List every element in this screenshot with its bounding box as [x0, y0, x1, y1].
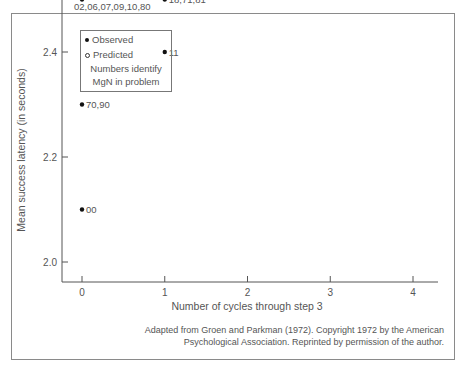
legend-predicted: Predicted [85, 47, 167, 62]
observed-point [80, 207, 84, 211]
x-tick-label: 3 [327, 287, 333, 298]
point-label: 18,71,81 [169, 0, 206, 5]
point-label: 02,06,07,09,10,80 [74, 1, 151, 12]
y-tick-label: 2.2 [43, 152, 57, 163]
y-axis-label: Mean success latency (in seconds) [15, 68, 27, 231]
point-label: 70,90 [86, 99, 110, 110]
scatter-plot: 2.02.22.42.62.83.03.23.43.63.84.04.20123… [0, 0, 468, 373]
legend-note-2: MgN in problem [85, 75, 167, 88]
y-tick-label: 2.4 [43, 47, 57, 58]
caption-line-1: Adapted from Groen and Parkman (1972). C… [24, 324, 444, 336]
legend-observed: Observed [85, 32, 167, 47]
legend: Observed Predicted Numbers identify MgN … [80, 30, 172, 92]
x-tick-label: 1 [162, 287, 168, 298]
caption-line-2: Psychological Association. Reprinted by … [24, 336, 444, 348]
x-tick-label: 4 [410, 287, 416, 298]
open-dot-icon [85, 53, 90, 58]
legend-note-1: Numbers identify [85, 62, 167, 75]
observed-point [163, 0, 167, 2]
x-tick-label: 2 [245, 287, 251, 298]
observed-point [80, 102, 84, 106]
point-label: 00 [86, 204, 97, 215]
figure-caption: Adapted from Groen and Parkman (1972). C… [24, 324, 444, 348]
x-axis-label: Number of cycles through step 3 [62, 300, 432, 312]
x-tick-label: 0 [79, 287, 85, 298]
y-tick-label: 2.0 [43, 257, 57, 268]
filled-dot-icon [85, 38, 89, 42]
